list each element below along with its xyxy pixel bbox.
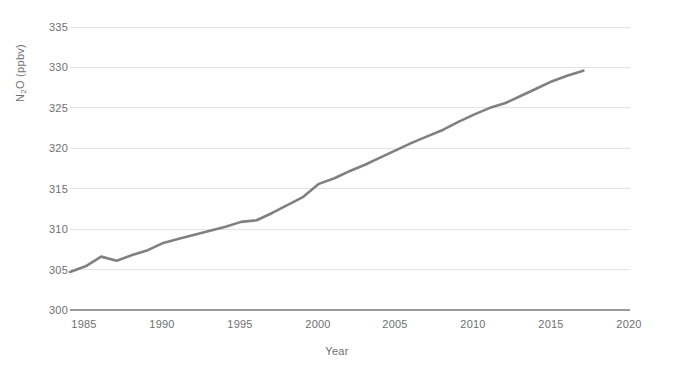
chart-container: 335 330 325 320 315 310 305 300 1985 199… [0, 0, 674, 376]
gridlines [70, 27, 630, 270]
plot-area [0, 0, 674, 376]
data-series-n2o [70, 71, 583, 272]
